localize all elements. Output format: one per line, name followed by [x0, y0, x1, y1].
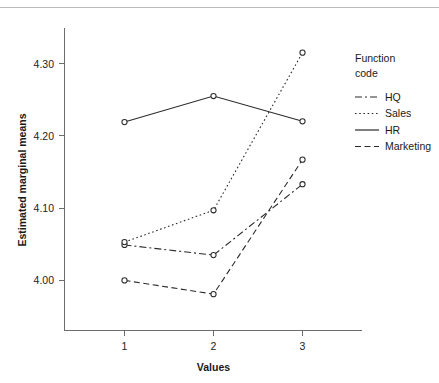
series-layer [122, 50, 305, 297]
legend-label-hr: HR [385, 124, 401, 136]
series-sales [122, 50, 305, 245]
data-point [122, 278, 127, 283]
legend-title-line2: code [355, 67, 378, 79]
legend-label-marketing: Marketing [385, 140, 431, 152]
data-point [300, 119, 305, 124]
series-hq [122, 182, 305, 258]
y-tick-label: 4.00 [34, 274, 55, 286]
chart-figure: 4.30 4.20 4.10 4.00 1 2 3 Values Estimat… [0, 0, 439, 383]
y-axis-ticks: 4.30 4.20 4.10 4.00 [34, 58, 65, 287]
data-point [122, 119, 127, 124]
data-point [211, 292, 216, 297]
legend-title-line1: Function [355, 52, 395, 64]
legend-entries: HQSalesHRMarketing [355, 91, 431, 153]
series-line-marketing [125, 160, 303, 294]
data-point [300, 50, 305, 55]
y-axis-title: Estimated marginal means [16, 113, 28, 246]
series-marketing [122, 157, 305, 297]
x-tick-label: 1 [122, 340, 128, 352]
x-tick-label: 3 [300, 340, 306, 352]
data-point [300, 157, 305, 162]
series-line-hq [125, 184, 303, 255]
y-tick-label: 4.30 [34, 58, 55, 70]
profile-plot-svg: 4.30 4.20 4.10 4.00 1 2 3 Values Estimat… [0, 0, 439, 383]
data-point [300, 182, 305, 187]
x-axis-ticks: 1 2 3 [122, 331, 306, 353]
y-tick-label: 4.10 [34, 202, 55, 214]
data-point [211, 252, 216, 257]
data-point [211, 208, 216, 213]
x-axis-title: Values [197, 361, 230, 373]
y-tick-label: 4.20 [34, 130, 55, 142]
legend: Function code HQSalesHRMarketing [355, 52, 431, 152]
legend-label-sales: Sales [385, 107, 411, 119]
series-line-hr [125, 96, 303, 122]
x-tick-label: 2 [211, 340, 217, 352]
legend-label-hq: HQ [385, 91, 401, 103]
series-hr [122, 93, 305, 124]
data-point [211, 93, 216, 98]
data-point [122, 239, 127, 244]
series-line-sales [125, 53, 303, 242]
